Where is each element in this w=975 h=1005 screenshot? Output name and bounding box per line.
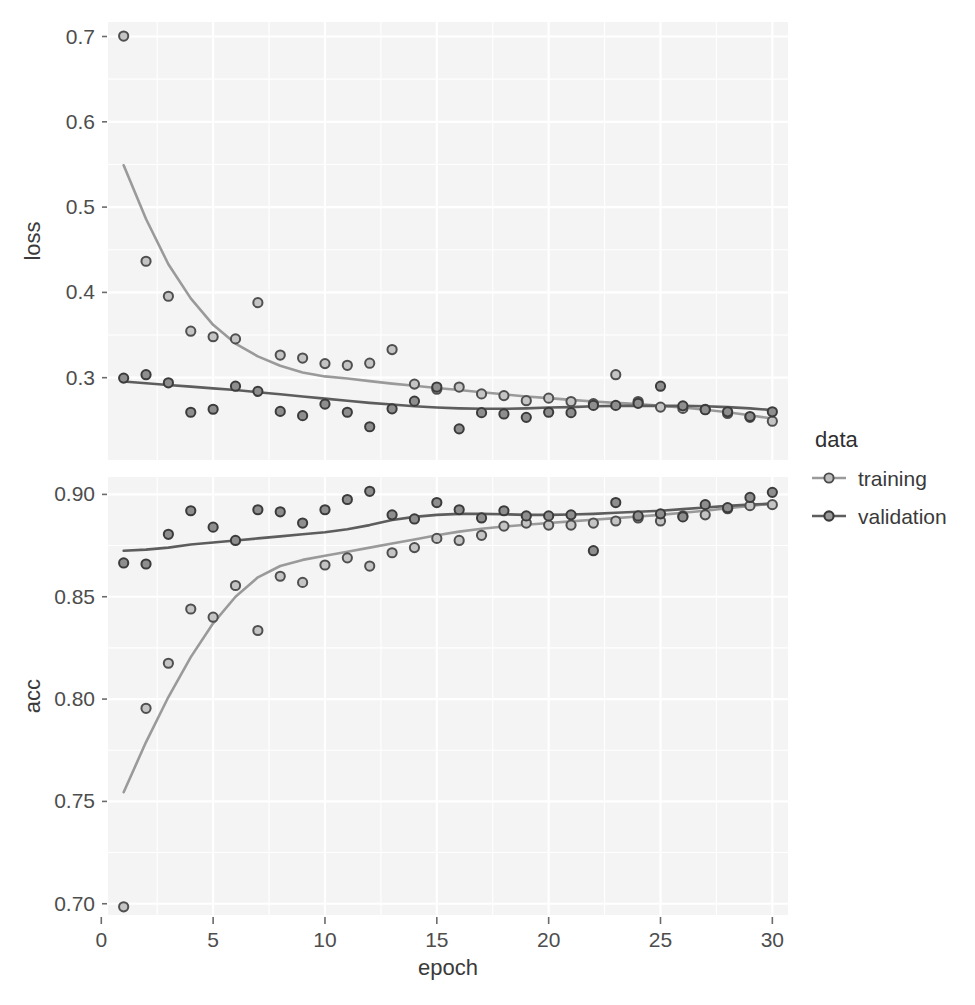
x-tick-label: 20: [537, 928, 560, 951]
y-tick-label: 0.3: [66, 366, 95, 389]
x-tick-label: 30: [761, 928, 784, 951]
y-axis-title-acc: acc: [20, 679, 45, 713]
chart-svg: 0.30.40.50.60.7 loss 0.700.750.800.850.9…: [0, 0, 975, 1005]
x-tick-label: 25: [649, 928, 672, 951]
chart-figure: 0.30.40.50.60.7 loss 0.700.750.800.850.9…: [0, 0, 975, 1005]
y-tick-label: 0.4: [66, 280, 96, 303]
panel-acc: 0.700.750.800.850.90: [54, 477, 788, 915]
y-tick-label: 0.70: [54, 892, 95, 915]
x-tick-label: 5: [207, 928, 219, 951]
x-tick-label: 0: [95, 928, 107, 951]
y-tick-label: 0.75: [54, 789, 95, 812]
legend-label-validation: validation: [858, 505, 947, 528]
legend-title: data: [815, 427, 859, 452]
x-axis-title: epoch: [418, 955, 478, 980]
y-tick-label: 0.7: [66, 25, 95, 48]
y-tick-label: 0.85: [54, 585, 95, 608]
x-tick-label: 10: [313, 928, 336, 951]
legend-label-training: training: [858, 467, 927, 490]
y-tick-label: 0.5: [66, 195, 95, 218]
y-tick-label: 0.6: [66, 110, 95, 133]
panel-loss-background: [108, 22, 788, 460]
y-tick-label: 0.80: [54, 687, 95, 710]
x-tick-label: 15: [425, 928, 448, 951]
y-tick-label: 0.90: [54, 482, 95, 505]
y-axis-title-loss: loss: [20, 221, 45, 260]
panel-loss: 0.30.40.50.60.7: [66, 22, 788, 460]
